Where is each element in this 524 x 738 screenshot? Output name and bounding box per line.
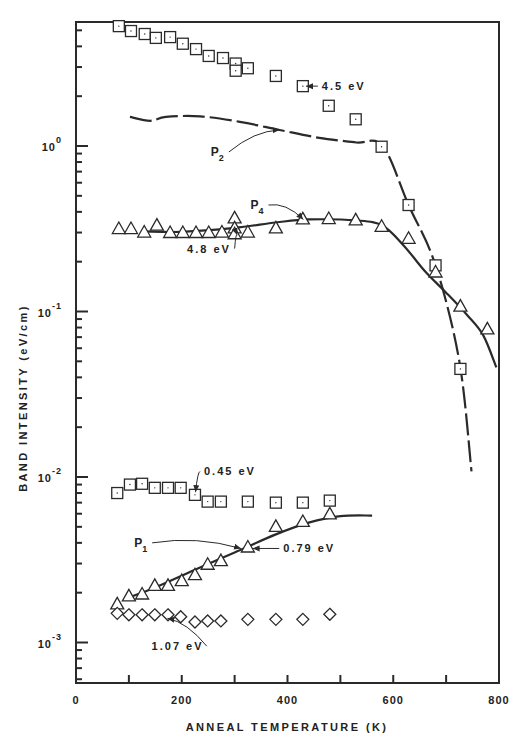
diamond-marker (189, 616, 201, 628)
diamond-marker (162, 609, 174, 621)
marker-center-dot (302, 502, 303, 503)
triangle-marker (481, 322, 494, 334)
marker-center-dot (182, 43, 183, 44)
y-tick-label: 100 (42, 135, 62, 153)
triangle-marker (322, 212, 335, 224)
annotation-arrow (229, 130, 280, 152)
marker-center-dot (118, 25, 119, 26)
diamond-marker (215, 615, 227, 627)
y-tick-label: 10-3 (38, 632, 62, 650)
marker-center-dot (247, 501, 248, 502)
y-tick-label: 10-1 (38, 301, 62, 319)
marker-center-dot (195, 48, 196, 49)
marker-center-dot (155, 37, 156, 38)
triangle-marker (201, 558, 214, 570)
triangle-marker (296, 212, 309, 224)
annotation-label: 1.07 eV (152, 640, 204, 652)
marker-center-dot (460, 368, 461, 369)
annotation-subscript: 1 (142, 544, 147, 554)
marker-center-dot (130, 30, 131, 31)
marker-center-dot (329, 500, 330, 501)
marker-center-dot (302, 85, 303, 86)
diamond-marker (324, 608, 336, 620)
annotation-lbl-0-45: 0.45 eV (195, 465, 255, 492)
triangle-marker (175, 574, 188, 586)
plot-frame (76, 22, 499, 683)
triangle-marker (124, 222, 137, 234)
marker-center-dot (194, 494, 195, 495)
diamond-marker (242, 613, 254, 625)
annotation-label: 0.45 eV (204, 465, 256, 477)
series-1-07-ev (111, 607, 336, 628)
y-tick-label: 10-2 (38, 466, 62, 484)
triangle-marker (375, 220, 388, 232)
annotation-lbl-p2: P2 (211, 130, 280, 163)
annotation-lbl-p1: P1 (134, 536, 241, 554)
y-tick-exponent: -1 (52, 301, 62, 311)
curve-p2 (130, 116, 472, 471)
diamond-marker (270, 613, 282, 625)
series-4-5-ev (113, 21, 466, 375)
marker-center-dot (208, 55, 209, 56)
marker-center-dot (355, 119, 356, 120)
marker-center-dot (129, 484, 130, 485)
data-markers (111, 21, 494, 628)
x-tick-label: 200 (171, 694, 192, 706)
marker-center-dot (275, 502, 276, 503)
annotation-label: 4.5 eV (322, 80, 366, 92)
triangle-marker (215, 226, 228, 238)
marker-center-dot (169, 36, 170, 37)
annotation-subscript: 2 (219, 153, 224, 163)
triangle-marker (296, 515, 309, 527)
x-tick-label: 600 (383, 694, 404, 706)
series-0-45-ev (112, 478, 336, 508)
diamond-marker (297, 613, 309, 625)
marker-center-dot (154, 487, 155, 488)
marker-center-dot (144, 33, 145, 34)
x-tick-label: 400 (277, 694, 298, 706)
triangle-marker (202, 226, 215, 238)
y-axis-title: BAND INTENSITY (eV/cm) (17, 304, 29, 492)
annotation-label: P1 (134, 536, 147, 554)
annotation-label: 0.79 eV (283, 542, 335, 554)
marker-center-dot (220, 501, 221, 502)
marker-center-dot (275, 75, 276, 76)
log-scale-scatter-plot: 020040060080010010-110-210-3 4.5 eVP2P44… (0, 0, 524, 738)
marker-center-dot (328, 105, 329, 106)
marker-center-dot (180, 487, 181, 488)
annotation-arrow (268, 205, 303, 220)
annotation-lbl-4-5: 4.5 eV (306, 80, 366, 92)
marker-center-dot (117, 492, 118, 493)
annotation-lbl-p4: P4 (250, 198, 303, 219)
marker-center-dot (167, 487, 168, 488)
triangle-marker (188, 568, 201, 580)
marker-center-dot (141, 483, 142, 484)
x-tick-label: 0 (72, 694, 79, 706)
annotation-lbl-0-79: 0.79 eV (253, 542, 336, 554)
marker-center-dot (247, 68, 248, 69)
y-tick-exponent: 0 (56, 135, 62, 145)
triangle-marker (269, 520, 282, 532)
chart: 020040060080010010-110-210-3 4.5 eVP2P44… (0, 0, 524, 738)
fit-curves (129, 116, 496, 598)
marker-center-dot (381, 146, 382, 147)
series-0-79-ev (111, 507, 337, 609)
triangle-marker (241, 540, 254, 552)
marker-center-dot (222, 57, 223, 58)
annotation-subscript: 4 (259, 206, 264, 216)
diamond-marker (149, 609, 161, 621)
annotation-label: P4 (250, 198, 263, 216)
x-tick-label: 800 (488, 694, 509, 706)
y-tick-exponent: -2 (52, 466, 62, 476)
marker-center-dot (408, 204, 409, 205)
annotations: 4.5 eVP2P44.8 eV0.45 eVP10.79 eV1.07 eV (134, 80, 366, 652)
triangle-marker (150, 219, 163, 231)
diamond-marker (202, 615, 214, 627)
marker-center-dot (235, 63, 236, 64)
diamond-marker (123, 609, 135, 621)
plot-border (76, 22, 499, 683)
y-tick-exponent: -3 (52, 632, 62, 642)
x-axis-title: ANNEAL TEMPERATURE (K) (186, 721, 389, 733)
triangle-marker (402, 232, 415, 244)
axis-ticks: 020040060080010010-110-210-3 (38, 30, 510, 706)
